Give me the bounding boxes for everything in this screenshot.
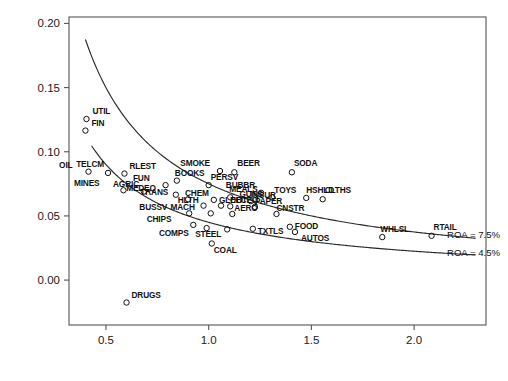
data-point-marker (174, 178, 179, 183)
y-tick-label: 0.15 (38, 82, 60, 94)
data-point-label: MACH (170, 202, 194, 212)
data-point-marker (208, 211, 213, 216)
data-point-marker (320, 197, 325, 202)
data-point-marker (84, 116, 89, 121)
data-point-label: BOOKS (175, 168, 205, 178)
plot-canvas: 0.51.01.52.0 0.000.050.100.150.20 UTILFI… (0, 0, 508, 381)
data-point-label: MINES (74, 178, 100, 188)
data-point-label: SMOKE (180, 158, 210, 168)
y-axis-ticks: 0.000.050.100.150.20 (38, 17, 69, 286)
data-point-label: WHLSL (380, 224, 409, 234)
data-point-marker (287, 224, 292, 229)
x-tick-label: 2.0 (406, 334, 422, 346)
data-point-label: BEER (237, 158, 260, 168)
data-point-label: FIN (91, 118, 104, 128)
data-point-label: UTIL (92, 106, 110, 116)
data-point-label: SODA (294, 158, 318, 168)
data-point-marker (289, 170, 294, 175)
data-point-marker (86, 169, 91, 174)
data-point-label: TXTLS (258, 226, 284, 236)
data-point-label: TOYS (274, 185, 296, 195)
data-point-label: RLEST (129, 161, 156, 171)
roa-curve-label: ROA = 4.5% (447, 247, 501, 258)
data-point-marker (191, 222, 196, 227)
data-point-marker (250, 226, 255, 231)
data-point-marker (122, 171, 127, 176)
data-point-marker (201, 203, 206, 208)
roa-curve-label: ROA = 7.5% (447, 229, 501, 240)
data-point-label: BUSSV (139, 202, 167, 212)
data-point-label: CLTHS (325, 185, 352, 195)
data-point-label: AUTOS (301, 233, 330, 243)
data-point-marker (211, 197, 216, 202)
data-point-label: FOOD (295, 221, 319, 231)
roa-curves (85, 39, 475, 255)
data-point-label: OIL (59, 160, 72, 170)
data-point-label: DRUGS (132, 290, 162, 300)
data-point-label: TELCM (76, 159, 104, 169)
curve-annotations: ROA = 7.5%ROA = 4.5% (447, 229, 501, 258)
y-tick-label: 0.20 (38, 17, 60, 29)
data-point-label: STEEL (195, 229, 221, 239)
data-points: UTILFINOILTELCMRLESTMINESAGRICFUNBOOKSME… (59, 106, 457, 305)
y-tick-label: 0.00 (38, 274, 60, 286)
data-point-label: CHIPS (147, 214, 172, 224)
data-point-label: COMPS (159, 228, 189, 238)
data-point-label: TRANS (140, 187, 168, 197)
data-point-marker (83, 128, 88, 133)
data-point-marker (105, 170, 110, 175)
x-tick-label: 1.5 (303, 334, 319, 346)
data-point-label: AERO (234, 203, 258, 213)
data-point-label: FUN (133, 173, 150, 183)
plot-frame (69, 17, 486, 325)
data-point-marker (124, 300, 129, 305)
x-tick-label: 0.5 (98, 334, 114, 346)
data-point-label: COAL (214, 245, 237, 255)
data-point-marker (304, 195, 309, 200)
scatter-plot-figure: 0.51.01.52.0 0.000.050.100.150.20 UTILFI… (0, 0, 508, 381)
x-tick-label: 1.0 (201, 334, 217, 346)
y-tick-label: 0.05 (38, 210, 60, 222)
data-point-marker (380, 234, 385, 239)
y-tick-label: 0.10 (38, 146, 60, 158)
data-point-label: CNSTR (276, 203, 304, 213)
x-axis-ticks: 0.51.01.52.0 (98, 325, 422, 346)
